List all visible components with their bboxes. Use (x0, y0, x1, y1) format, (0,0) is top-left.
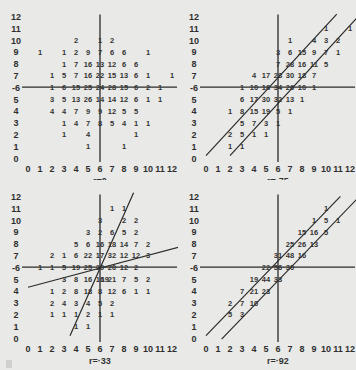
frequency-cell: 1 (50, 83, 54, 92)
x-tick-label: 4 (251, 344, 256, 354)
y-tick-label: 7 (13, 251, 18, 261)
frequency-cell: 5 (324, 216, 328, 225)
frequency-cell: 3 (324, 36, 328, 45)
frequency-cell: 5 (62, 263, 66, 272)
y-tick-label: 7 (13, 71, 18, 81)
frequency-cell: 56 (274, 263, 282, 272)
frequency-cell: 7 (312, 71, 316, 80)
frequency-cell: 5 (122, 107, 126, 116)
y-tick-label: 7 (191, 251, 196, 261)
y-tick-label: 4 (191, 286, 196, 296)
panel-r0: 012345-678910111201234567891011122121129… (0, 0, 178, 180)
frequency-cell: 12 (132, 251, 140, 260)
frequency-cell: 22 (96, 71, 104, 80)
frequency-cell: 10 (250, 299, 258, 308)
frequency-cell: 1 (62, 60, 66, 69)
frequency-cell: 12 (120, 251, 128, 260)
frequency-cell: 15 (298, 48, 306, 57)
y-tick-label: 0 (191, 334, 196, 344)
y-tick-label: 3 (13, 118, 18, 128)
frequency-cell: 13 (286, 95, 294, 104)
frequency-cell: 1 (110, 204, 114, 213)
frequency-cell: 8 (240, 107, 244, 116)
frequency-cell: 8 (98, 119, 102, 128)
y-tick-label: 2 (13, 310, 18, 320)
frequency-cell: 22 (84, 251, 92, 260)
frequency-cell: 6 (122, 48, 126, 57)
x-tick-label: 4 (251, 164, 256, 174)
frequency-cell: 1 (146, 119, 150, 128)
frequency-cell: 17 (262, 71, 270, 80)
x-tick-label: 9 (133, 164, 138, 174)
frequency-cell: 12 (108, 60, 116, 69)
y-tick-label: 10 (189, 216, 199, 226)
x-tick-label: 9 (311, 164, 316, 174)
frequency-cell: 4 (312, 36, 317, 45)
frequency-cell: 17 (250, 95, 258, 104)
frequency-cell: 19 (250, 275, 258, 284)
y-tick-label: 4 (13, 106, 18, 116)
frequency-cell: 19 (72, 263, 80, 272)
y-tick-label: -6 (12, 83, 20, 93)
frequency-cell: 1 (86, 142, 90, 151)
correlation-table-r33: 012345-678910111201234567891011121132232… (0, 180, 178, 370)
frequency-cell: 5 (74, 240, 78, 249)
frequency-cell: 1 (86, 322, 90, 331)
x-tick-label: 0 (203, 164, 208, 174)
x-tick-label: 12 (167, 344, 177, 354)
x-tick-label: 5 (85, 164, 90, 174)
frequency-cell: 4 (62, 107, 67, 116)
frequency-cell: 2 (98, 228, 102, 237)
frequency-cell: 1 (336, 216, 340, 225)
frequency-cell: 5 (122, 228, 126, 237)
frequency-cell: 2 (74, 48, 78, 57)
frequency-cell: 3 (98, 216, 102, 225)
frequency-cell: 6 (134, 60, 138, 69)
y-tick-label: -6 (190, 263, 198, 273)
frequency-cell: 26 (84, 95, 92, 104)
x-tick-label: 12 (345, 344, 355, 354)
y-tick-label: 5 (191, 95, 196, 105)
frequency-cell: 1 (146, 287, 150, 296)
frequency-cell: 4 (74, 119, 79, 128)
frequency-cell: 1 (348, 24, 352, 33)
frequency-cell: 1 (62, 119, 66, 128)
y-tick-label: 9 (191, 47, 196, 57)
y-tick-label: 8 (13, 239, 18, 249)
x-tick-label: 5 (263, 164, 268, 174)
frequency-cell: 8 (98, 287, 102, 296)
frequency-cell: 26 (298, 240, 306, 249)
frequency-cell: 11 (310, 60, 318, 69)
frequency-cell: 25 (286, 240, 294, 249)
frequency-cell: 9 (86, 107, 90, 116)
frequency-cell: 2 (146, 275, 150, 284)
x-tick-label: 2 (227, 164, 232, 174)
frequency-cell: 29 (96, 263, 104, 272)
x-tick-label: 11 (333, 344, 343, 354)
frequency-cell: 7 (74, 60, 78, 69)
y-tick-label: 11 (189, 204, 199, 214)
frequency-cell: 17 (96, 251, 104, 260)
frequency-cell: 8 (74, 275, 78, 284)
frequency-cell: 1 (110, 310, 114, 319)
frequency-cell: 48 (286, 251, 294, 260)
y-tick-label: 1 (13, 142, 18, 152)
frequency-cell: 1 (50, 310, 54, 319)
frequency-cell: 7 (86, 119, 90, 128)
x-tick-label: 11 (333, 164, 343, 174)
frequency-cell: 2 (86, 310, 90, 319)
frequency-cell: 4 (122, 119, 127, 128)
frequency-cell: 1 (122, 204, 126, 213)
frequency-cell: 7 (122, 275, 126, 284)
frequency-cell: 5 (276, 107, 280, 116)
x-tick-label: 12 (345, 164, 355, 174)
frequency-cell: 7 (134, 240, 138, 249)
frequency-cell: 6 (62, 83, 66, 92)
frequency-cell: 1 (228, 142, 232, 151)
frequency-cell: 3 (146, 251, 150, 260)
frequency-cell: 10 (250, 83, 258, 92)
frequency-cell: 7 (252, 119, 256, 128)
frequency-cell: 1 (312, 216, 316, 225)
frequency-cell: 1 (336, 48, 340, 57)
correlation-table-r75: 012345-678910111201234567891011121114323… (178, 0, 356, 180)
